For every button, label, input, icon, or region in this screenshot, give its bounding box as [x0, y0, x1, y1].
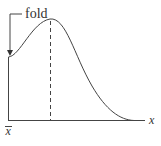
fold-label: fold [25, 6, 48, 21]
folded-distribution-diagram: fold x x [0, 0, 161, 146]
x-axis-label: x [148, 113, 155, 127]
x-bar-label: x [5, 124, 12, 138]
density-curve [9, 19, 135, 121]
fold-arrow-line [10, 14, 22, 52]
